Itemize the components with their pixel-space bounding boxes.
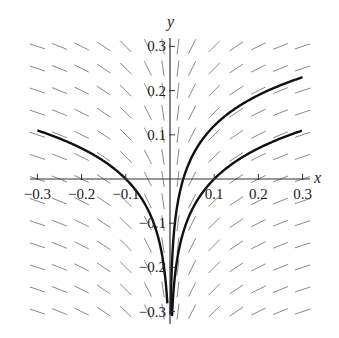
- slope-segment: [97, 108, 110, 117]
- slope-segment: [120, 218, 131, 229]
- slope-segment: [52, 43, 67, 49]
- slope-segment: [30, 110, 45, 115]
- slope-segment: [251, 286, 265, 293]
- slope-segment: [144, 150, 151, 164]
- slope-segment: [273, 287, 288, 293]
- slope-segment: [97, 263, 110, 272]
- slope-segment: [120, 63, 131, 74]
- slope-segment: [209, 107, 220, 118]
- slope-segment: [144, 106, 151, 120]
- slope-segment: [251, 242, 265, 249]
- slope-segment: [97, 197, 110, 206]
- slope-segment: [273, 220, 288, 226]
- slope-segment: [273, 154, 288, 160]
- slope-segment: [251, 109, 265, 116]
- slope-segment: [273, 242, 288, 248]
- slope-segment: [30, 243, 45, 248]
- slope-segment: [30, 309, 45, 314]
- slope-segment: [30, 154, 45, 159]
- x-tick-label: 0.3: [293, 186, 312, 202]
- slope-segment: [230, 307, 243, 316]
- slope-segment: [74, 220, 88, 227]
- slope-segment: [177, 83, 179, 99]
- slope-segment: [97, 130, 110, 139]
- slope-segment: [144, 238, 151, 252]
- slope-segment: [52, 242, 67, 248]
- slope-segment: [251, 153, 265, 160]
- slope-segment: [74, 131, 88, 138]
- slope-segment: [295, 154, 310, 159]
- slope-segment: [97, 307, 110, 316]
- slope-segment: [52, 88, 67, 94]
- slope-segment: [295, 221, 310, 226]
- slope-segment: [177, 38, 179, 54]
- slope-field-chart: −0.3−0.2−0.10.10.20.3−0.3−0.2−0.10.10.20…: [0, 0, 339, 338]
- slope-segment: [74, 264, 88, 271]
- slope-segment: [273, 110, 288, 116]
- y-tick-label: −0.2: [139, 259, 166, 275]
- slope-segment: [177, 61, 179, 77]
- slope-segment: [97, 219, 110, 228]
- slope-segment: [120, 129, 131, 140]
- slope-segment: [251, 131, 265, 138]
- slope-segment: [52, 309, 67, 315]
- slope-segment: [162, 282, 164, 298]
- slope-segment: [74, 43, 88, 50]
- slope-segment: [162, 61, 164, 77]
- slope-segment: [230, 86, 243, 95]
- slope-segment: [30, 66, 45, 71]
- slope-segment: [189, 39, 196, 53]
- slope-segment: [209, 262, 220, 273]
- slope-segment: [177, 149, 179, 165]
- slope-segment: [177, 215, 179, 231]
- slope-segment: [230, 130, 243, 139]
- slope-segment: [273, 198, 288, 204]
- slope-segment: [189, 83, 196, 97]
- slope-segment: [189, 304, 196, 318]
- slope-segment: [120, 284, 131, 295]
- slope-segment: [209, 218, 220, 229]
- slope-segment: [209, 63, 220, 74]
- x-tick-label: 0.2: [249, 186, 268, 202]
- slope-segment: [189, 106, 196, 120]
- slope-segment: [273, 264, 288, 270]
- slope-segment: [30, 88, 45, 93]
- slope-segment: [162, 105, 164, 121]
- slope-segment: [74, 153, 88, 160]
- y-tick-label: 0.1: [147, 127, 166, 143]
- slope-segment: [120, 151, 131, 162]
- slope-segment: [273, 309, 288, 315]
- slope-segment: [251, 65, 265, 72]
- x-tick-label: 0.1: [205, 186, 224, 202]
- slope-segment: [230, 108, 243, 117]
- y-tick-label: 0.3: [147, 38, 166, 54]
- slope-segment: [295, 287, 310, 292]
- slope-segment: [144, 61, 151, 75]
- slope-segment: [273, 66, 288, 72]
- y-tick-label: −0.3: [139, 304, 166, 320]
- slope-segment: [295, 110, 310, 115]
- slope-segment: [52, 287, 67, 293]
- slope-segment: [162, 193, 164, 209]
- slope-segment: [30, 44, 45, 49]
- slope-segment: [251, 43, 265, 50]
- slope-segment: [189, 61, 196, 75]
- slope-segment: [74, 109, 88, 116]
- slope-segment: [52, 154, 67, 160]
- slope-segment: [209, 240, 220, 251]
- y-tick-label: −0.1: [139, 215, 166, 231]
- y-axis-label: y: [165, 13, 175, 31]
- y-tick-label: 0.2: [147, 83, 166, 99]
- slope-segment: [230, 285, 243, 294]
- slope-segment: [120, 41, 131, 52]
- slope-segment: [120, 240, 131, 251]
- x-tick-label: −0.3: [24, 186, 51, 202]
- slope-segment: [177, 282, 179, 298]
- slope-segment: [209, 85, 220, 96]
- slope-segment: [120, 107, 131, 118]
- slope-segment: [251, 220, 265, 227]
- slope-segment: [273, 43, 288, 49]
- slope-segment: [120, 262, 131, 273]
- slope-segment: [74, 308, 88, 315]
- slope-segment: [251, 264, 265, 271]
